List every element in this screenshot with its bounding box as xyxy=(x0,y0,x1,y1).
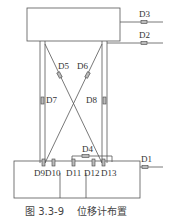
label-d2: D2 xyxy=(139,30,150,40)
displacement-gauge-layout-diagram: D3 D2 D5 D6 D7 D8 D4 D9 D10 D11 D12 D13 … xyxy=(0,0,177,223)
base-block xyxy=(14,161,140,198)
d2-gauge-icon xyxy=(141,42,147,45)
d9-gauge-icon xyxy=(42,159,45,166)
d13-gauge-icon xyxy=(102,159,105,166)
d1-gauge-icon xyxy=(142,166,148,169)
d4-gauge-icon xyxy=(82,155,89,158)
label-d10: D10 xyxy=(45,168,61,178)
label-d1: D1 xyxy=(141,154,152,164)
label-d11: D11 xyxy=(66,168,81,178)
d8-gauge-icon xyxy=(103,97,106,104)
d10-gauge-icon xyxy=(52,159,55,166)
figure-caption: 图 3.3-9 位移计布置 xyxy=(25,205,127,217)
label-d9: D9 xyxy=(34,168,45,178)
label-d13: D13 xyxy=(101,168,117,178)
d5-gauge-icon xyxy=(57,72,62,79)
d7-gauge-icon xyxy=(41,97,44,104)
label-d3: D3 xyxy=(139,9,150,19)
top-beam xyxy=(27,8,120,41)
d3-gauge-icon xyxy=(141,21,147,24)
d11-gauge-icon xyxy=(72,159,75,166)
d12-gauge-icon xyxy=(92,159,95,166)
label-d5: D5 xyxy=(58,61,69,71)
label-d6: D6 xyxy=(77,61,88,71)
label-d7: D7 xyxy=(46,95,57,105)
d6-gauge-icon xyxy=(85,72,90,79)
label-d4: D4 xyxy=(82,144,93,154)
label-d12: D12 xyxy=(84,168,100,178)
label-d8: D8 xyxy=(86,95,97,105)
